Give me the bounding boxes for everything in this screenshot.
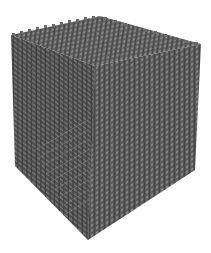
cube-right-face xyxy=(88,44,201,240)
lattice-cube-render xyxy=(0,0,211,253)
cube-left-face xyxy=(11,35,95,240)
